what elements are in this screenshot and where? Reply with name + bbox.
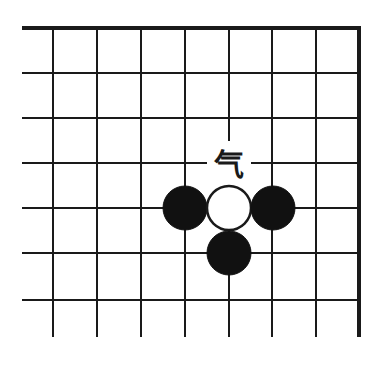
- black-stone: [163, 186, 207, 230]
- board-grid: [22, 26, 361, 337]
- black-stone: [251, 186, 295, 230]
- stones-layer: [163, 186, 295, 275]
- black-stone: [207, 231, 251, 275]
- go-board: 气: [0, 0, 382, 367]
- liberty-label: 气: [214, 147, 244, 182]
- white-stone: [207, 186, 251, 230]
